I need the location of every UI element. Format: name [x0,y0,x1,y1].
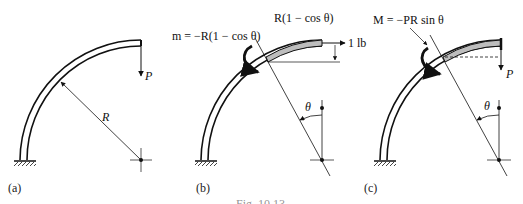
load-label: P [144,69,153,83]
panel-a: P R (a) [8,40,153,195]
radius-label: R [101,110,110,124]
figure-caption: Fig. 10.13 [236,197,285,204]
caption-b: (b) [196,181,210,195]
angle-label: θ [484,99,490,113]
angle-label: θ [305,100,311,114]
arm-label: R(1 − cos θ) [274,11,334,25]
panel-c: P M = −PR sin θ θ (c) [364,13,514,195]
caption-a: (a) [8,181,21,195]
figure-canvas: P R (a) m = −R(1 − cos θ) R(1 − cos θ) 1… [0,0,523,204]
panel-b: m = −R(1 − cos θ) R(1 − cos θ) 1 lb θ (b… [172,11,366,195]
load-label: P [505,67,514,81]
moment-label: M = −PR sin θ [373,13,444,27]
moment-label: m = −R(1 − cos θ) [172,29,260,43]
caption-c: (c) [364,181,377,195]
force-label: 1 lb [348,36,366,50]
